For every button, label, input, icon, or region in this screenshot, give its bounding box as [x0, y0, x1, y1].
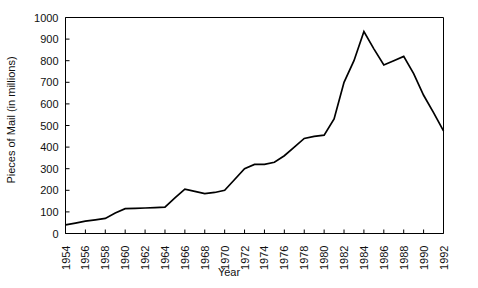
y-tick-label: 900 [40, 33, 58, 45]
data-series-line [66, 32, 444, 225]
y-tick-label: 0 [52, 228, 58, 240]
y-tick-label: 500 [40, 120, 58, 132]
x-tick-mark-group [66, 230, 444, 234]
plot-area: 01002003004005006007008009001000 1954195… [0, 0, 478, 288]
y-tick-label: 400 [40, 141, 58, 153]
y-tick-label: 100 [40, 206, 58, 218]
plot-frame [66, 18, 444, 234]
x-axis-title-label: Year [218, 266, 240, 278]
y-tick-label: 800 [40, 55, 58, 67]
y-tick-label: 600 [40, 98, 58, 110]
y-tick-label: 1000 [34, 12, 58, 24]
line-chart: Pieces of Mail (in millions) 01002003004… [0, 0, 478, 288]
y-tick-label: 700 [40, 76, 58, 88]
y-tick-label: 200 [40, 184, 58, 196]
y-tick-mark-group [66, 18, 70, 234]
y-tick-label-group: 01002003004005006007008009001000 [34, 12, 58, 240]
y-tick-label: 300 [40, 163, 58, 175]
x-axis-title: Year [0, 266, 478, 278]
